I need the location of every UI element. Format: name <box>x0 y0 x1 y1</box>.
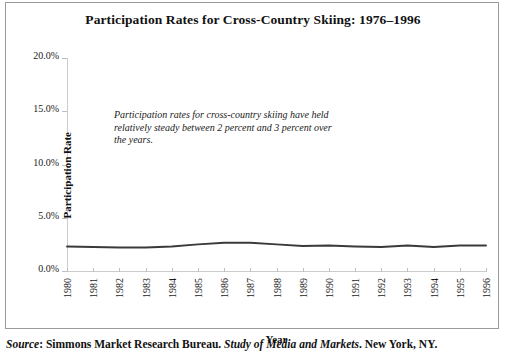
x-tick-label: 1990 <box>323 278 334 298</box>
source-work-title: Study of Media and Markets <box>224 338 359 350</box>
x-tick-label: 1988 <box>271 278 282 298</box>
x-tick-label: 1992 <box>376 278 387 298</box>
y-tick: 0.0% <box>9 271 67 272</box>
x-tick-label: 1986 <box>219 278 230 298</box>
y-tick: 5.0% <box>9 218 67 219</box>
figure-container: Participation Rates for Cross-Country Sk… <box>0 0 505 359</box>
x-tick-label: 1982 <box>114 278 125 298</box>
x-tick-label: 1993 <box>402 278 413 298</box>
y-tick-label: 5.0% <box>38 210 59 221</box>
y-tick-label: 20.0% <box>33 50 59 61</box>
y-tick-label: 10.0% <box>33 157 59 168</box>
y-tick: 15.0% <box>9 111 67 112</box>
source-note: Source: Simmons Market Research Bureau. … <box>6 338 499 350</box>
x-tick-label: 1983 <box>140 278 151 298</box>
x-tick-label: 1984 <box>166 278 177 298</box>
y-tick-label: 0.0% <box>38 263 59 274</box>
y-tick: 20.0% <box>9 58 67 59</box>
source-publisher: Simmons Market Research Bureau. <box>46 338 224 350</box>
series-line-chart <box>67 58 486 271</box>
x-tick-label: 1980 <box>62 278 73 298</box>
x-tick-label: 1994 <box>428 278 439 298</box>
x-tick-label: 1996 <box>481 278 492 298</box>
x-tick-mark <box>486 268 487 272</box>
x-tick-label: 1985 <box>192 278 203 298</box>
x-tick-label: 1987 <box>245 278 256 298</box>
x-tick-label: 1991 <box>350 278 361 298</box>
chart-title: Participation Rates for Cross-Country Sk… <box>6 12 500 28</box>
series-polyline <box>67 243 486 248</box>
source-colon: : <box>39 338 46 350</box>
chart-annotation: Participation rates for cross-country sk… <box>114 109 336 147</box>
y-axis-label: Participation Rate <box>61 132 73 218</box>
y-tick-label: 15.0% <box>33 103 59 114</box>
x-tick-label: 1981 <box>88 278 99 298</box>
chart-frame: Participation Rates for Cross-Country Sk… <box>5 2 499 329</box>
y-tick: 10.0% <box>9 165 67 166</box>
x-tick-label: 1995 <box>454 278 465 298</box>
plot-area: 0.0%5.0%10.0%15.0%20.0% 1980198119821983… <box>67 58 486 271</box>
source-location: . New York, NY. <box>359 338 437 350</box>
x-tick-label: 1989 <box>297 278 308 298</box>
source-label: Source <box>6 338 39 350</box>
